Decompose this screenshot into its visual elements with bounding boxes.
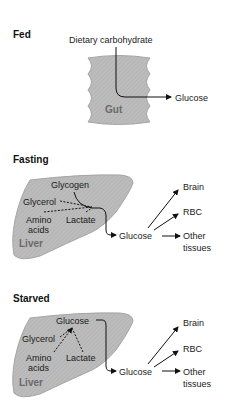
fasting-glycerol-label: Glycerol <box>23 197 56 207</box>
fed-output-label: Glucose <box>175 93 208 103</box>
starved-other-label: Other <box>183 367 206 377</box>
fasting-tissues-label: tissues <box>183 243 211 253</box>
starved-lactate-label: Lactate <box>66 353 96 363</box>
starved-glycerol-label: Glycerol <box>22 334 55 344</box>
fasting-glycogen-label: Glycogen <box>51 180 89 190</box>
fasting-acids-label: acids <box>28 225 49 235</box>
fasting-lactate-label: Lactate <box>66 215 96 225</box>
starved-amino-label: Amino <box>26 353 52 363</box>
starved-title: Starved <box>13 293 50 304</box>
starved-rbc-label: RBC <box>183 344 202 354</box>
starved-output-label: Glucose <box>119 367 152 377</box>
starved-brain-arrow <box>148 327 178 364</box>
fasting-brain-label: Brain <box>183 182 204 192</box>
starved-rbc-arrow <box>154 351 178 367</box>
starved-tissues-label: tissues <box>183 379 211 389</box>
fasting-brain-arrow <box>148 190 178 228</box>
fasting-other-label: Other <box>183 231 206 241</box>
starved-liver-label: Liver <box>19 377 43 388</box>
starved-internal-glucose-label: Glucose <box>56 316 89 326</box>
fed-title: Fed <box>13 29 31 40</box>
starved-acids-label: acids <box>28 363 49 373</box>
fasting-liver-label: Liver <box>19 238 43 249</box>
starved-brain-label: Brain <box>183 318 204 328</box>
fed-source-label: Dietary carbohydrate <box>69 35 153 45</box>
fasting-output-label: Glucose <box>119 231 152 241</box>
fasting-amino-label: Amino <box>26 215 52 225</box>
fasting-rbc-label: RBC <box>183 207 202 217</box>
gut-label: Gut <box>105 104 122 115</box>
fasting-title: Fasting <box>13 154 49 165</box>
